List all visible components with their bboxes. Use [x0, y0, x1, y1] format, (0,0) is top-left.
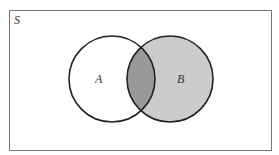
- set-b-label: B: [177, 72, 185, 86]
- universe-label: S: [14, 13, 20, 27]
- set-a-label: A: [94, 72, 103, 86]
- venn-diagram: S A B: [0, 0, 279, 155]
